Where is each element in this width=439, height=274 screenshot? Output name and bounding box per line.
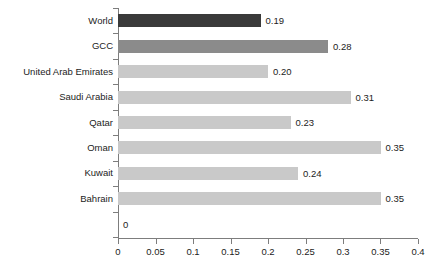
bar-value-label: 0 <box>123 219 128 230</box>
bar-value-label: 0.31 <box>356 92 375 103</box>
bar <box>118 116 291 129</box>
y-axis-label-gcc: GCC <box>92 40 113 51</box>
x-axis-tick-label: 0.1 <box>186 246 199 257</box>
bar-value-label: 0.19 <box>266 15 285 26</box>
y-axis-label-kuwait: Kuwait <box>84 167 113 178</box>
bar-value-label: 0.23 <box>296 117 315 128</box>
bar <box>118 192 381 205</box>
plot-area: 0.190.280.200.310.230.350.240.350 <box>118 8 418 237</box>
x-axis-tick <box>156 239 157 244</box>
x-axis-tick <box>380 239 381 244</box>
y-axis-label-world: World <box>88 15 113 26</box>
bar <box>118 91 351 104</box>
x-axis-tick <box>118 239 119 244</box>
bar <box>118 40 328 53</box>
bar-value-label: 0.28 <box>333 41 352 52</box>
x-axis-tick-label: 0 <box>115 246 120 257</box>
x-axis-tick <box>343 239 344 244</box>
x-axis-tick <box>193 239 194 244</box>
bar-value-label: 0.24 <box>303 168 322 179</box>
y-axis-label-qatar: Qatar <box>89 117 113 128</box>
bar-value-label: 0.35 <box>386 142 405 153</box>
y-axis-category-labels: World GCC United Arab Emirates Saudi Ara… <box>0 8 113 237</box>
bar-value-label: 0.20 <box>273 66 292 77</box>
bar <box>118 14 261 27</box>
bar <box>118 167 298 180</box>
y-axis-label-united-arab-emirates: United Arab Emirates <box>23 66 113 77</box>
x-axis-tick-label: 0.35 <box>371 246 390 257</box>
x-axis-tick <box>418 239 419 244</box>
y-axis-label-bahrain: Bahrain <box>80 193 113 204</box>
y-axis-label-saudi-arabia: Saudi Arabia <box>59 91 113 102</box>
x-axis-tick <box>306 239 307 244</box>
x-axis-tick-label: 0.25 <box>296 246 315 257</box>
bar <box>118 141 381 154</box>
x-axis-tick-label: 0.4 <box>411 246 424 257</box>
bar <box>118 65 268 78</box>
x-axis-tick-label: 0.2 <box>261 246 274 257</box>
y-axis-tick <box>113 237 118 238</box>
bar-value-label: 0.35 <box>386 193 405 204</box>
x-axis-tick-label: 0.3 <box>336 246 349 257</box>
y-axis-label-oman: Oman <box>87 142 113 153</box>
bar-chart: World GCC United Arab Emirates Saudi Ara… <box>0 0 439 274</box>
x-axis-tick-label: 0.15 <box>221 246 240 257</box>
x-axis-tick <box>268 239 269 244</box>
x-axis-tick-label: 0.05 <box>146 246 165 257</box>
x-axis-tick <box>231 239 232 244</box>
